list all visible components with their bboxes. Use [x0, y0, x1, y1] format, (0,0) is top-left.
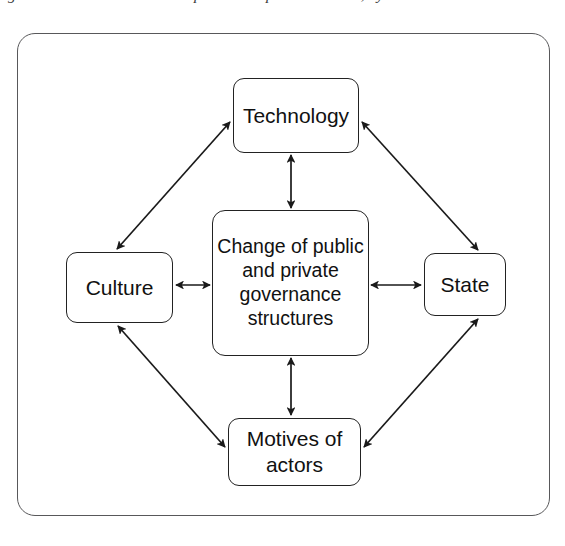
node-technology-label: Technology	[234, 103, 358, 129]
node-center-label: Change of public and private governance …	[213, 235, 368, 330]
node-center-governance[interactable]: Change of public and private governance …	[212, 210, 369, 356]
node-culture-label: Culture	[67, 275, 172, 301]
node-motives[interactable]: Motives of actors	[228, 418, 361, 486]
node-state[interactable]: State	[424, 253, 506, 316]
arrow-motives-culture	[118, 326, 225, 447]
node-motives-label: Motives of actors	[229, 426, 360, 477]
node-culture[interactable]: Culture	[66, 252, 173, 323]
arrow-state-motives	[364, 319, 478, 447]
node-state-label: State	[425, 272, 505, 298]
node-technology[interactable]: Technology	[233, 78, 359, 153]
arrow-technology-state	[362, 122, 478, 250]
